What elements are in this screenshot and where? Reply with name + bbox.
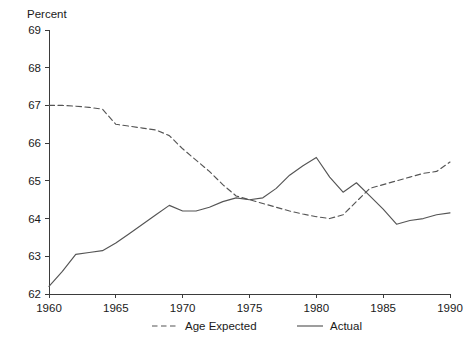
x-tick-label: 1975	[237, 302, 263, 314]
y-axis-label: Percent	[27, 8, 67, 20]
x-tick-label: 1970	[170, 302, 196, 314]
legend-label-actual: Actual	[330, 320, 362, 332]
y-tick-label: 63	[28, 250, 41, 262]
x-tick-label: 1965	[103, 302, 129, 314]
chart-background	[0, 0, 475, 354]
line-chart: Percent 6263646566676869 196019651970197…	[0, 0, 475, 354]
x-tick-label: 1990	[437, 302, 463, 314]
y-tick-label: 66	[28, 137, 41, 149]
chart-container: Percent 6263646566676869 196019651970197…	[0, 0, 475, 354]
x-tick-label: 1960	[36, 302, 62, 314]
y-tick-label: 68	[28, 62, 41, 74]
y-tick-label: 65	[28, 175, 41, 187]
legend-label-age-expected: Age Expected	[185, 320, 257, 332]
x-tick-label: 1980	[304, 302, 330, 314]
y-tick-label: 69	[28, 24, 41, 36]
y-tick-label: 62	[28, 288, 41, 300]
x-tick-label: 1985	[370, 302, 396, 314]
y-tick-label: 67	[28, 99, 41, 111]
y-tick-label: 64	[28, 213, 41, 225]
